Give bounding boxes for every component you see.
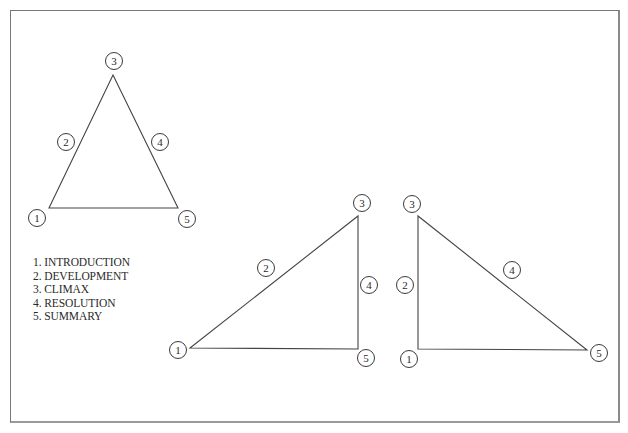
node-development: 2 [58,134,75,151]
node-summary: 5 [358,350,375,367]
node-introduction: 1 [29,210,46,227]
node-climax: 3 [354,195,371,212]
early-climax-triangle: 1 2 3 4 5 [397,196,608,368]
symmetric-triangle: 1 2 3 4 5 [29,53,196,228]
node-summary: 5 [591,345,608,362]
node-label: 3 [111,55,117,67]
node-label: 5 [184,213,190,225]
node-development: 2 [258,260,275,277]
node-label: 1 [175,344,181,356]
legend-item-development: 2. DEVELOPMENT [33,270,130,284]
node-label: 2 [263,262,269,274]
triangle-outline [418,216,587,350]
node-climax: 3 [106,53,123,70]
node-label: 2 [402,279,408,291]
node-resolution: 4 [504,262,521,279]
legend-item-resolution: 4. RESOLUTION [33,297,130,311]
legend-item-introduction: 1. INTRODUCTION [33,256,130,270]
node-label: 3 [409,198,415,210]
story-structure-diagrams: 1 2 3 4 5 1 2 3 [0,0,628,433]
node-label: 5 [596,347,602,359]
late-climax-triangle: 1 2 3 4 5 [170,195,378,367]
node-resolution: 4 [361,277,378,294]
node-label: 3 [359,197,365,209]
node-label: 1 [406,353,412,365]
node-label: 1 [34,212,40,224]
legend: 1. INTRODUCTION 2. DEVELOPMENT 3. CLIMAX… [33,256,130,324]
node-label: 4 [157,136,163,148]
node-introduction: 1 [170,342,187,359]
node-label: 5 [363,352,369,364]
node-label: 4 [509,264,515,276]
node-label: 2 [63,136,69,148]
node-development: 2 [397,277,414,294]
legend-item-summary: 5. SUMMARY [33,310,130,324]
node-label: 4 [366,279,372,291]
triangle-outline [190,216,358,349]
node-summary: 5 [179,211,196,228]
legend-item-climax: 3. CLIMAX [33,283,130,297]
node-resolution: 4 [152,134,169,151]
node-climax: 3 [404,196,421,213]
node-introduction: 1 [401,351,418,368]
